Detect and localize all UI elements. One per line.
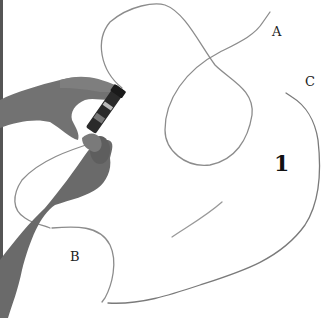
lower-hand [0,136,112,318]
label-a: A [272,25,281,38]
wire-b-lower [52,227,114,302]
wire-to-c [108,93,319,303]
label-b: B [70,250,80,263]
step-number: 1 [274,152,289,174]
wire-loop-top [101,4,270,165]
label-c: C [305,75,315,88]
wire-short-segment [172,202,222,237]
